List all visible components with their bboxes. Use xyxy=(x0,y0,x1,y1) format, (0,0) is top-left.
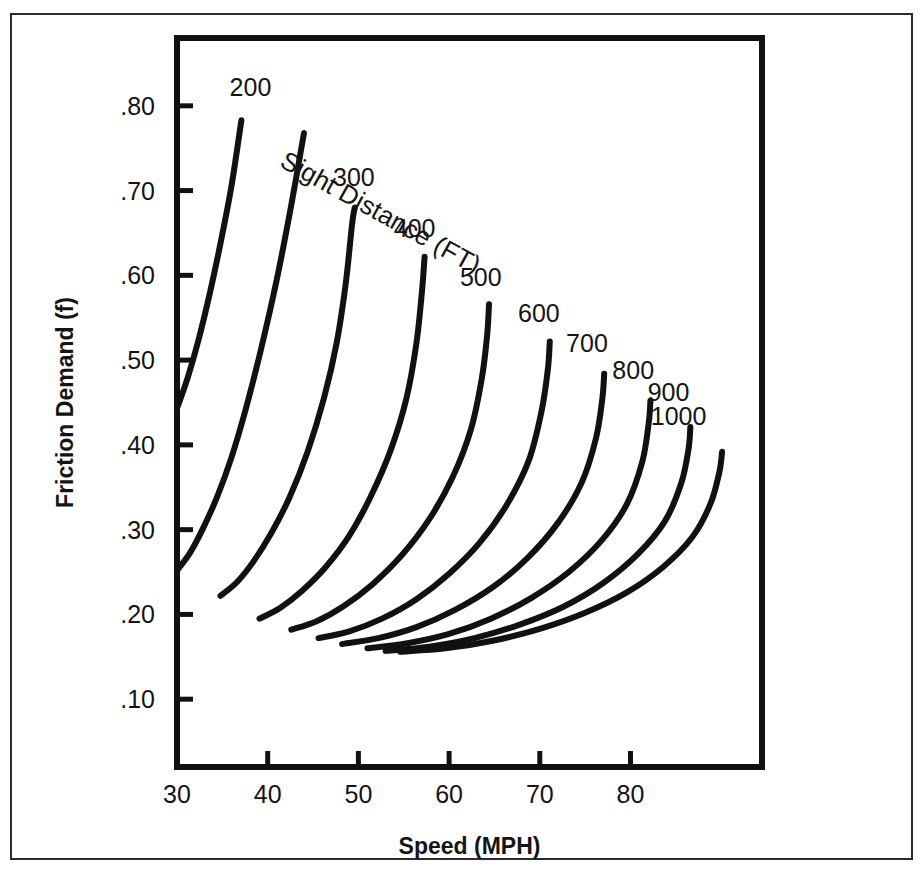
figure-container: .10.20.30.40.50.60.70.80304050607080Spee… xyxy=(0,0,924,878)
x-tick-label: 60 xyxy=(435,780,463,808)
y-axis-title: Friction Demand (f) xyxy=(52,297,78,508)
curve-500 xyxy=(291,304,489,630)
curve-600 xyxy=(318,341,549,638)
y-tick-label: .40 xyxy=(120,431,155,459)
x-tick-label: 30 xyxy=(163,780,191,808)
x-tick-label: 70 xyxy=(526,780,554,808)
labels-group: .10.20.30.40.50.60.70.80304050607080Spee… xyxy=(52,73,706,859)
y-tick-label: .50 xyxy=(120,346,155,374)
y-tick-label: .60 xyxy=(120,261,155,289)
y-tick-label: .70 xyxy=(120,177,155,205)
y-tick-label: .80 xyxy=(120,92,155,120)
chart-canvas: .10.20.30.40.50.60.70.80304050607080Spee… xyxy=(0,0,924,878)
x-tick-label: 80 xyxy=(617,780,645,808)
sight-distance-annotation: Sight Distance (FT) xyxy=(276,145,486,280)
curves-group xyxy=(177,120,722,652)
x-tick-label: 50 xyxy=(344,780,372,808)
curve-800 xyxy=(367,401,650,649)
y-tick-label: .30 xyxy=(120,516,155,544)
curve-300 xyxy=(221,208,355,596)
curve-label-200: 200 xyxy=(230,73,272,101)
curve-200 xyxy=(177,120,241,408)
x-tick-label: 40 xyxy=(254,780,282,808)
y-tick-label: .10 xyxy=(120,685,155,713)
curve-label-700: 700 xyxy=(566,329,608,357)
y-tick-label: .20 xyxy=(120,600,155,628)
curve-label-1000: 1000 xyxy=(651,402,707,430)
curve-label-600: 600 xyxy=(518,299,560,327)
x-axis-title: Speed (MPH) xyxy=(399,833,541,859)
